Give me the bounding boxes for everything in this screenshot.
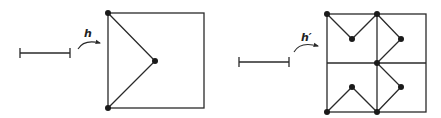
right-panel: h′ — [239, 11, 426, 115]
diagram-canvas: h h′ — [0, 0, 441, 118]
map-label-h-prime: h′ — [301, 31, 312, 44]
vertex-dots-left — [105, 10, 158, 111]
map-label-h: h — [84, 27, 92, 40]
map-arrow-h — [78, 42, 100, 49]
map-arrow-h-prime — [294, 44, 318, 52]
unit-interval-left — [20, 48, 70, 58]
curve-h — [108, 13, 155, 108]
left-panel: h — [20, 10, 204, 111]
unit-interval-right — [239, 57, 289, 67]
